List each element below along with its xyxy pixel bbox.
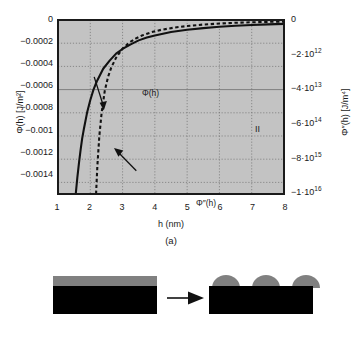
xtick-5: 5 xyxy=(185,203,190,212)
vertical-gridlines xyxy=(90,20,251,194)
plot-frame: Φ(h) Φ″(h) II xyxy=(57,19,285,195)
ytick-right-0-mantissa: 0 xyxy=(291,14,296,24)
ytick-right-1: −2·1012 xyxy=(291,50,322,59)
ytick-left-1: −0.0002 xyxy=(5,37,53,46)
plot-canvas xyxy=(58,20,284,194)
figure-container: Φ(h) Φ″(h) II 0 −0.0002 −0.0004 −0.0006 … xyxy=(0,0,363,344)
xtick-1: 1 xyxy=(54,203,59,212)
transition-arrow xyxy=(167,292,204,305)
phi-annotation-arrow xyxy=(94,77,107,111)
ytick-right-5-exponent: 16 xyxy=(314,185,321,192)
ytick-left-5: −0.001 xyxy=(5,125,53,134)
ytick-right-2-exponent: 13 xyxy=(314,81,321,88)
x-axis-label: h (nm) xyxy=(131,219,211,229)
droplets-diagram xyxy=(209,275,320,314)
xtick-2: 2 xyxy=(87,203,92,212)
plot-border xyxy=(58,20,283,193)
ytick-right-5: −1·1016 xyxy=(291,188,322,197)
ytick-right-2: −4·1013 xyxy=(291,84,322,93)
ytick-right-4-exponent: 15 xyxy=(314,150,321,157)
ytick-right-3-mantissa: −6·10 xyxy=(291,117,314,127)
xtick-7: 7 xyxy=(250,203,255,212)
xtick-3: 3 xyxy=(120,203,125,212)
substrate-block-right xyxy=(209,286,313,314)
ytick-left-6: −0.0012 xyxy=(5,147,53,156)
uniform-film-diagram xyxy=(53,276,157,314)
substrate-block-left xyxy=(53,286,157,314)
region-label-ii: II xyxy=(255,124,260,134)
panel-caption-a: (a) xyxy=(151,235,191,246)
ytick-right-3: −6·1014 xyxy=(291,118,322,127)
horizontal-gridlines xyxy=(58,43,284,182)
ytick-right-5-mantissa: −1·10 xyxy=(291,187,314,197)
y-axis-label-left: Φ(h) [J/m²] xyxy=(15,62,25,162)
ytick-right-4: −8·1015 xyxy=(291,153,322,162)
ytick-right-0: 0 xyxy=(291,15,296,24)
ytick-left-3: −0.0006 xyxy=(5,81,53,90)
xtick-4: 4 xyxy=(152,203,157,212)
ytick-right-1-exponent: 12 xyxy=(314,47,321,54)
ytick-left-7: −0.0014 xyxy=(5,169,53,178)
xtick-8: 8 xyxy=(282,203,287,212)
ytick-right-1-mantissa: −2·10 xyxy=(291,49,314,59)
ytick-left-4: −0.0008 xyxy=(5,103,53,112)
curve-phi xyxy=(76,24,284,194)
ytick-left-0: 0 xyxy=(5,15,53,24)
panel-a-plot: Φ(h) Φ″(h) II 0 −0.0002 −0.0004 −0.0006 … xyxy=(0,0,363,250)
ytick-right-4-mantissa: −8·10 xyxy=(291,152,314,162)
curve-label-phi-second-derivative: Φ″(h) xyxy=(196,198,216,208)
curve-label-phi: Φ(h) xyxy=(142,88,159,98)
xtick-6: 6 xyxy=(217,203,222,212)
y-axis-label-right: Φ″(h) [J/m⁴] xyxy=(340,62,350,162)
ytick-left-2: −0.0004 xyxy=(5,59,53,68)
dewetting-schematic xyxy=(0,258,363,328)
thin-film-layer xyxy=(53,276,157,286)
ytick-right-3-exponent: 14 xyxy=(314,115,321,122)
panel-b-schematic: (b) xyxy=(0,258,363,328)
ytick-right-2-mantissa: −4·10 xyxy=(291,83,314,93)
